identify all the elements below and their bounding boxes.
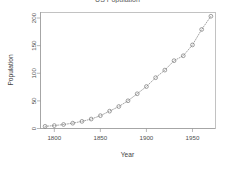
x-tick-label: 1800 [47,134,61,141]
chart-plot-area: 050100150200 1800185019001950 Year Popul… [0,0,235,171]
y-tick-label: 150 [30,40,37,51]
x-tick-label: 1850 [93,134,107,141]
x-axis: 1800185019001950 [41,129,216,141]
data-point [172,59,176,63]
data-point [181,54,185,58]
series-points-population [43,14,213,128]
plot-box [41,13,216,129]
y-tick-label: 50 [30,97,37,104]
chart-canvas: US Population 050100150200 1800185019001… [0,0,235,171]
x-tick-label-group: 1800185019001950 [47,134,199,141]
series-line-population [45,16,211,126]
x-tick-label: 1950 [186,134,200,141]
y-tick-group [37,18,41,128]
y-tick-label-group: 050100150200 [30,12,37,130]
data-point [135,92,139,96]
x-axis-title: Year [121,151,135,158]
y-tick-label: 0 [30,126,37,130]
data-point [108,109,112,113]
y-axis-title: Population [7,54,15,85]
data-point [117,105,121,109]
y-tick-label: 200 [30,12,37,23]
data-point [200,28,204,32]
data-point [154,76,158,80]
x-tick-label: 1900 [140,134,154,141]
x-tick-group [54,129,192,133]
data-point [98,114,102,118]
y-axis: 050100150200 [30,12,40,130]
y-tick-label: 100 [30,68,37,79]
